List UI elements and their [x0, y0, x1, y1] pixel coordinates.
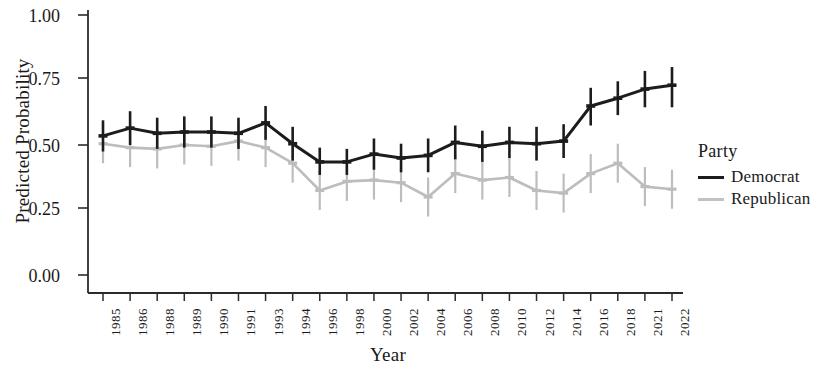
axes — [78, 10, 683, 293]
x-tick-label: 2018 — [623, 308, 639, 336]
y-axis-tick-labels: 1.00 0.75 0.50 0.25 0.00 — [0, 0, 60, 374]
legend-label-democrat: Democrat — [731, 167, 800, 187]
x-tick-label: 2012 — [542, 308, 558, 336]
x-tick-label: 1991 — [243, 308, 259, 336]
y-tick-label: 0.50 — [6, 137, 60, 155]
x-tick-label: 2004 — [433, 308, 449, 336]
legend-label-republican: Republican — [731, 189, 810, 209]
x-tick-label: 1990 — [216, 308, 232, 336]
x-tick-label: 1989 — [189, 308, 205, 336]
x-tick-label: 2021 — [650, 308, 666, 336]
x-axis-label: Year — [88, 344, 688, 366]
chart-figure: Predicted Probability 1.00 0.75 0.50 0.2… — [0, 0, 827, 374]
series-line — [103, 85, 672, 162]
x-tick-label: 1998 — [352, 308, 368, 336]
x-tick-label: 2022 — [677, 308, 693, 336]
x-tick-label: 1988 — [162, 308, 178, 336]
x-tick-label: 1986 — [135, 308, 151, 336]
y-tick-label: 1.00 — [6, 7, 60, 25]
legend-item-democrat[interactable]: Democrat — [698, 167, 810, 187]
data-series — [99, 67, 677, 217]
legend-swatch-republican — [698, 198, 724, 201]
x-tick-label: 1985 — [108, 308, 124, 336]
x-tick-label: 1996 — [325, 308, 341, 336]
y-tick-label: 0.25 — [6, 200, 60, 218]
y-tick-label: 0.75 — [6, 70, 60, 88]
x-tick-label: 1994 — [298, 308, 314, 336]
x-tick-label: 2006 — [460, 308, 476, 336]
legend-swatch-democrat — [698, 176, 724, 179]
x-tick-label: 2000 — [379, 308, 395, 336]
x-tick-label: 1993 — [271, 308, 287, 336]
legend: Party Democrat Republican — [698, 141, 810, 211]
x-axis-ticks — [103, 293, 672, 301]
x-tick-label: 2010 — [514, 308, 530, 336]
y-tick-label: 0.00 — [6, 267, 60, 285]
x-tick-label: 2014 — [569, 308, 585, 336]
legend-title: Party — [698, 141, 810, 162]
series-line — [103, 141, 672, 197]
x-tick-label: 2008 — [487, 308, 503, 336]
legend-item-republican[interactable]: Republican — [698, 189, 810, 209]
x-tick-label: 2016 — [596, 308, 612, 336]
x-tick-label: 2002 — [406, 308, 422, 336]
